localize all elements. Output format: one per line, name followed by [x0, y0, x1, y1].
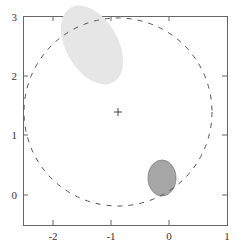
plot-frame [24, 17, 228, 226]
y-tick-label: 3 [12, 11, 18, 23]
x-tick-label: -1 [106, 230, 115, 242]
plot: -2 -1 0 1 0 1 2 3 [0, 0, 241, 249]
y-axis-ticks [23, 76, 227, 195]
y-tick-label: 2 [12, 70, 18, 82]
y-tick-label: 1 [12, 129, 18, 141]
center-plus-marker [114, 108, 122, 116]
x-tick-label: -2 [48, 230, 57, 242]
x-tick-label: 1 [224, 230, 230, 242]
dark-ellipse [148, 160, 176, 196]
light-ellipse [48, 0, 136, 95]
y-tick-label: 0 [12, 189, 18, 201]
x-tick-label: 0 [166, 230, 172, 242]
